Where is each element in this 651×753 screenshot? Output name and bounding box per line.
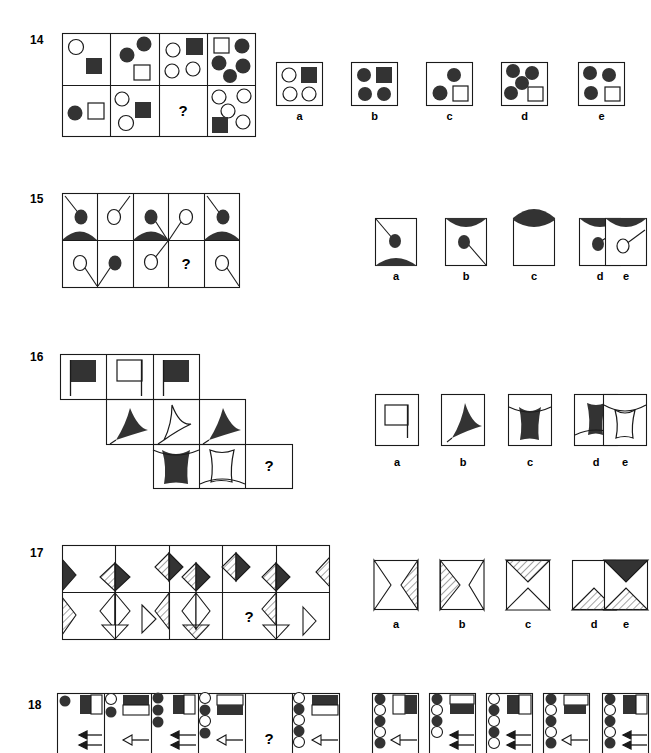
option-label-17-e: e xyxy=(604,618,648,630)
option-14-b[interactable] xyxy=(351,62,398,106)
option-label-15-a: a xyxy=(375,270,417,282)
option-label-14-c: c xyxy=(426,110,473,122)
option-17-e[interactable] xyxy=(604,560,648,610)
option-15-a[interactable] xyxy=(375,218,417,266)
option-18-a[interactable] xyxy=(372,693,419,753)
question-mark-18: ? xyxy=(264,730,273,747)
option-14-d[interactable] xyxy=(501,62,548,106)
option-label-14-e: e xyxy=(578,110,625,122)
option-18-d[interactable] xyxy=(543,693,590,753)
item-number-18: 18 xyxy=(28,698,42,712)
item-number-16: 16 xyxy=(30,350,44,364)
matrix-18: ? xyxy=(57,693,340,753)
option-18-b[interactable] xyxy=(429,693,476,753)
option-label-14-b: b xyxy=(351,110,398,122)
option-label-17-c: c xyxy=(506,618,550,630)
option-label-16-c: c xyxy=(508,456,552,468)
question-mark-16: ? xyxy=(264,457,273,474)
option-label-16-b: b xyxy=(441,456,485,468)
matrix-16: ? xyxy=(60,354,290,489)
option-16-b[interactable] xyxy=(441,394,485,446)
option-16-a[interactable] xyxy=(375,394,419,446)
option-label-17-b: b xyxy=(440,618,484,630)
option-17-a[interactable] xyxy=(374,560,418,610)
question-mark-15: ? xyxy=(181,255,190,272)
option-17-b[interactable] xyxy=(440,560,484,610)
option-label-15-c: c xyxy=(513,270,555,282)
option-15-e[interactable] xyxy=(605,218,647,266)
option-14-e[interactable] xyxy=(578,62,625,106)
option-15-b[interactable] xyxy=(445,218,487,266)
option-18-c[interactable] xyxy=(486,693,533,753)
item-number-15: 15 xyxy=(30,192,44,206)
option-17-c[interactable] xyxy=(506,560,550,610)
option-14-a[interactable] xyxy=(276,62,323,106)
option-label-17-a: a xyxy=(374,618,418,630)
option-label-16-a: a xyxy=(375,456,419,468)
matrix-15: ? xyxy=(62,193,240,288)
option-18-e[interactable] xyxy=(602,693,649,753)
option-14-c[interactable] xyxy=(426,62,473,106)
option-label-15-e: e xyxy=(605,270,647,282)
question-mark-14: ? xyxy=(178,102,187,119)
option-label-16-e: e xyxy=(603,456,647,468)
question-mark-17: ? xyxy=(244,608,253,625)
matrix-17: ? xyxy=(62,545,330,640)
matrix-14: ? xyxy=(62,33,256,137)
option-15-c[interactable] xyxy=(513,218,555,266)
item-number-17: 17 xyxy=(30,546,44,560)
option-16-e[interactable] xyxy=(603,394,647,446)
option-label-15-b: b xyxy=(445,270,487,282)
option-16-c[interactable] xyxy=(508,394,552,446)
item-number-14: 14 xyxy=(30,33,44,47)
option-label-14-d: d xyxy=(501,110,548,122)
option-label-14-a: a xyxy=(276,110,323,122)
